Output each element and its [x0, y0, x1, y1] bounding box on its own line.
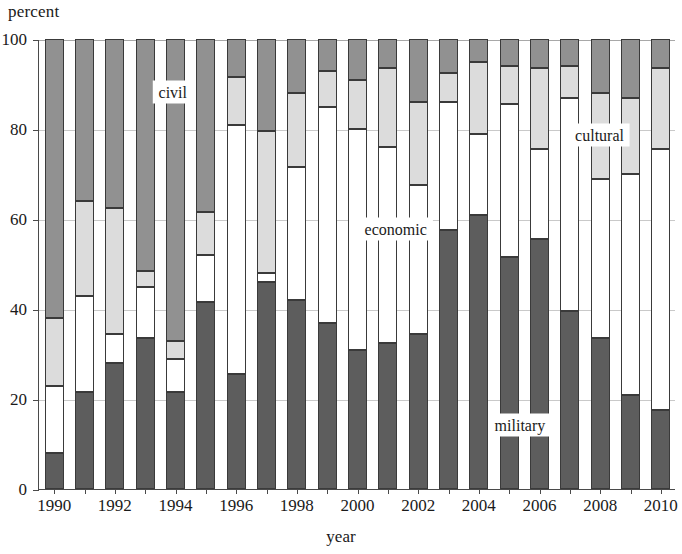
- bar-segment-civil[interactable]: [348, 39, 367, 80]
- bar-segment-cultural[interactable]: [409, 102, 428, 185]
- bar-segment-cultural[interactable]: [469, 62, 488, 134]
- bar-segment-economic[interactable]: [227, 125, 246, 375]
- bar-segment-economic[interactable]: [409, 185, 428, 334]
- bar-segment-civil[interactable]: [560, 39, 579, 66]
- bar-segment-military[interactable]: [196, 302, 215, 489]
- bar-segment-cultural[interactable]: [500, 66, 519, 104]
- bar-segment-military[interactable]: [75, 392, 94, 489]
- bar-segment-economic[interactable]: [621, 174, 640, 395]
- bar-segment-economic[interactable]: [136, 287, 155, 339]
- bar-2002[interactable]: [409, 40, 428, 489]
- bar-segment-economic[interactable]: [591, 179, 610, 339]
- bar-segment-military[interactable]: [560, 311, 579, 489]
- bar-segment-economic[interactable]: [378, 147, 397, 343]
- bar-segment-cultural[interactable]: [257, 131, 276, 273]
- bar-2009[interactable]: [621, 40, 640, 489]
- bar-segment-economic[interactable]: [45, 386, 64, 454]
- bar-segment-cultural[interactable]: [530, 68, 549, 149]
- bar-2007[interactable]: [560, 40, 579, 489]
- bar-segment-civil[interactable]: [530, 39, 549, 68]
- bar-segment-economic[interactable]: [530, 149, 549, 239]
- bar-1999[interactable]: [318, 40, 337, 489]
- bar-1998[interactable]: [287, 40, 306, 489]
- bar-2003[interactable]: [439, 40, 458, 489]
- bar-segment-military[interactable]: [469, 215, 488, 490]
- bar-segment-economic[interactable]: [287, 167, 306, 300]
- bar-1993[interactable]: [136, 40, 155, 489]
- bar-segment-civil[interactable]: [591, 39, 610, 93]
- bar-segment-military[interactable]: [166, 392, 185, 489]
- bar-segment-civil[interactable]: [378, 39, 397, 68]
- bar-segment-military[interactable]: [500, 257, 519, 489]
- bar-segment-cultural[interactable]: [105, 208, 124, 334]
- bar-segment-military[interactable]: [227, 374, 246, 489]
- bar-segment-military[interactable]: [136, 338, 155, 489]
- bar-1991[interactable]: [75, 40, 94, 489]
- bar-segment-civil[interactable]: [45, 39, 64, 318]
- bar-1997[interactable]: [257, 40, 276, 489]
- bar-segment-economic[interactable]: [651, 149, 670, 410]
- bar-segment-civil[interactable]: [439, 39, 458, 73]
- y-axis-tick: [33, 130, 39, 131]
- bar-segment-cultural[interactable]: [651, 68, 670, 149]
- bar-segment-cultural[interactable]: [45, 318, 64, 386]
- bar-segment-military[interactable]: [348, 350, 367, 490]
- bar-segment-cultural[interactable]: [378, 68, 397, 147]
- bar-segment-military[interactable]: [621, 395, 640, 490]
- bar-2008[interactable]: [591, 40, 610, 489]
- bar-1994[interactable]: [166, 40, 185, 489]
- bar-segment-cultural[interactable]: [439, 73, 458, 102]
- bar-segment-cultural[interactable]: [287, 93, 306, 167]
- x-axis-tick: [661, 489, 662, 494]
- bar-2001[interactable]: [378, 40, 397, 489]
- bar-1995[interactable]: [196, 40, 215, 489]
- bar-segment-military[interactable]: [409, 334, 428, 489]
- bar-segment-civil[interactable]: [136, 39, 155, 271]
- bar-1990[interactable]: [45, 40, 64, 489]
- bar-segment-military[interactable]: [651, 410, 670, 489]
- bar-segment-civil[interactable]: [287, 39, 306, 93]
- bar-segment-military[interactable]: [257, 282, 276, 489]
- bar-segment-cultural[interactable]: [196, 212, 215, 255]
- bar-segment-civil[interactable]: [257, 39, 276, 131]
- bar-segment-military[interactable]: [591, 338, 610, 489]
- bar-segment-cultural[interactable]: [136, 271, 155, 287]
- bar-segment-economic[interactable]: [75, 296, 94, 393]
- bar-segment-civil[interactable]: [196, 39, 215, 212]
- bar-segment-economic[interactable]: [257, 273, 276, 282]
- bar-segment-economic[interactable]: [439, 102, 458, 230]
- bar-segment-economic[interactable]: [318, 107, 337, 323]
- bar-segment-economic[interactable]: [469, 134, 488, 215]
- bar-2000[interactable]: [348, 40, 367, 489]
- bar-segment-cultural[interactable]: [560, 66, 579, 98]
- bar-segment-civil[interactable]: [227, 39, 246, 77]
- bar-segment-civil[interactable]: [500, 39, 519, 66]
- bar-segment-civil[interactable]: [318, 39, 337, 71]
- bar-segment-military[interactable]: [105, 363, 124, 489]
- bar-segment-military[interactable]: [378, 343, 397, 489]
- bar-segment-civil[interactable]: [409, 39, 428, 102]
- bar-segment-economic[interactable]: [196, 255, 215, 302]
- bar-segment-economic[interactable]: [105, 334, 124, 363]
- bar-segment-military[interactable]: [45, 453, 64, 489]
- bar-segment-cultural[interactable]: [75, 201, 94, 296]
- bar-segment-cultural[interactable]: [227, 77, 246, 124]
- bar-segment-civil[interactable]: [75, 39, 94, 201]
- bar-segment-military[interactable]: [439, 230, 458, 489]
- bar-segment-cultural[interactable]: [166, 341, 185, 359]
- bar-segment-civil[interactable]: [651, 39, 670, 68]
- bar-segment-military[interactable]: [530, 239, 549, 489]
- bar-segment-civil[interactable]: [469, 39, 488, 62]
- bar-segment-military[interactable]: [318, 323, 337, 490]
- bar-1996[interactable]: [227, 40, 246, 489]
- bar-segment-civil[interactable]: [621, 39, 640, 98]
- bar-segment-civil[interactable]: [105, 39, 124, 208]
- bar-2010[interactable]: [651, 40, 670, 489]
- bar-segment-military[interactable]: [287, 300, 306, 489]
- bar-2004[interactable]: [469, 40, 488, 489]
- bar-1992[interactable]: [105, 40, 124, 489]
- bar-segment-cultural[interactable]: [348, 80, 367, 130]
- bar-segment-cultural[interactable]: [318, 71, 337, 107]
- bar-segment-economic[interactable]: [500, 104, 519, 257]
- bar-segment-economic[interactable]: [166, 359, 185, 393]
